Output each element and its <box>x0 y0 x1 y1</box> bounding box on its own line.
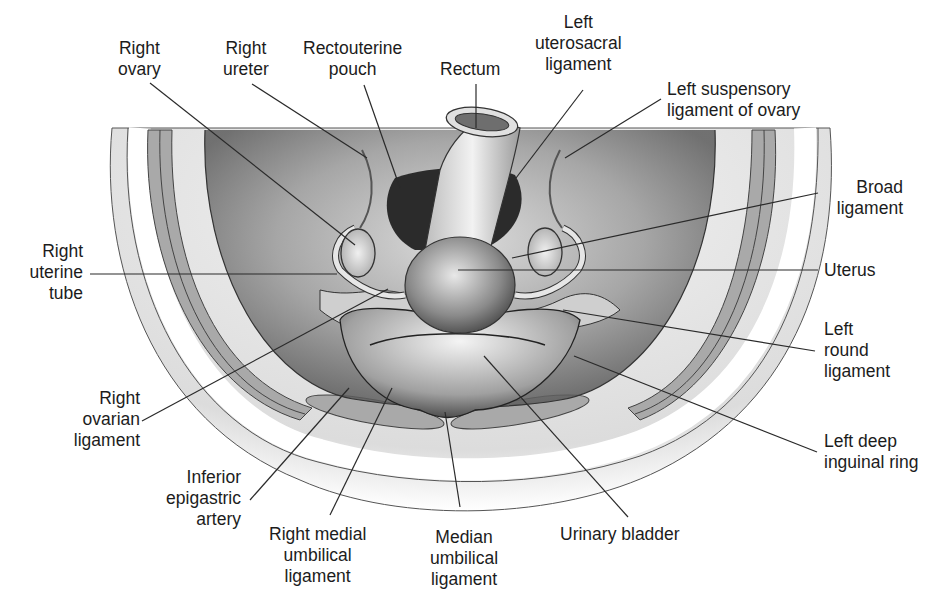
label-right-ovary: Right ovary <box>118 38 161 80</box>
pelvis-illustration <box>0 0 945 602</box>
label-urinary-bladder: Urinary bladder <box>560 524 680 545</box>
right-ovary-shape <box>341 229 375 277</box>
label-rectouterine-pouch: Rectouterine pouch <box>303 38 402 80</box>
label-median-umbilical-ligament: Median umbilical ligament <box>430 527 498 590</box>
label-left-suspensory-ligament-of-ovary: Left suspensory ligament of ovary <box>667 79 800 121</box>
label-right-ureter: Right ureter <box>223 38 269 80</box>
pelvis-anatomy-diagram: Right ovary Right ureter Rectouterine po… <box>0 0 945 602</box>
label-right-medial-umbilical-ligament: Right medial umbilical ligament <box>269 524 366 587</box>
uterus-shape <box>405 237 515 333</box>
left-ovary-shape <box>528 228 562 276</box>
label-broad-ligament: Broad ligament <box>837 177 903 219</box>
label-left-deep-inguinal-ring: Left deep inguinal ring <box>824 431 918 473</box>
label-right-ovarian-ligament: Right ovarian ligament <box>74 388 140 451</box>
label-left-round-ligament: Left round ligament <box>824 319 890 382</box>
label-right-uterine-tube: Right uterine tube <box>29 241 83 304</box>
label-inferior-epigastric-artery: Inferior epigastric artery <box>166 467 241 530</box>
label-rectum: Rectum <box>440 59 500 80</box>
label-uterus: Uterus <box>824 260 876 281</box>
label-left-uterosacral-ligament: Left uterosacral ligament <box>535 12 622 75</box>
